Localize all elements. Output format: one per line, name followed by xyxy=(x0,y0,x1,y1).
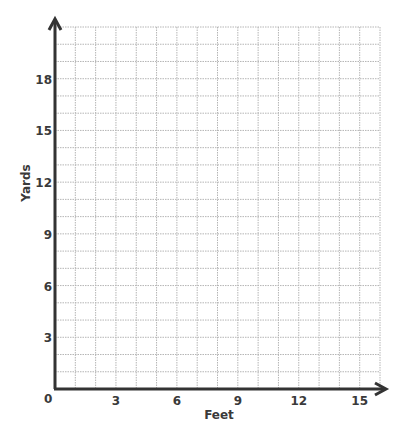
x-tick-labels: 3691215 xyxy=(112,394,368,408)
y-tick-label: 6 xyxy=(44,280,52,294)
x-tick-label: 12 xyxy=(290,394,307,408)
y-tick-label: 15 xyxy=(35,124,52,138)
x-tick-label: 6 xyxy=(173,394,181,408)
y-tick-label: 9 xyxy=(44,228,52,242)
grid-lines xyxy=(55,27,380,389)
x-axis-label: Feet xyxy=(204,408,234,422)
y-axis-label: Yards xyxy=(19,164,33,202)
x-tick-label: 3 xyxy=(112,394,120,408)
y-tick-labels: 369121518 xyxy=(35,73,52,346)
x-tick-label: 15 xyxy=(351,394,368,408)
y-tick-label: 3 xyxy=(44,331,52,345)
coordinate-grid-chart: 3691215 369121518 0 Feet Yards xyxy=(0,0,405,435)
origin-label: 0 xyxy=(44,392,52,406)
y-tick-label: 18 xyxy=(35,73,52,87)
y-tick-label: 12 xyxy=(35,176,52,190)
x-tick-label: 9 xyxy=(234,394,242,408)
